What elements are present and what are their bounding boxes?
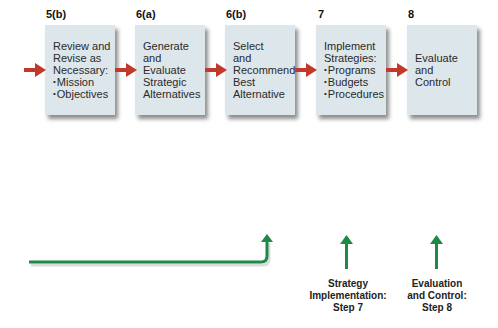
- step-text: Generate: [143, 40, 205, 52]
- label-strategy-implementation: Strategy Implementation: Step 7: [300, 278, 396, 314]
- step-box-implement: Implement Strategies: Programs Budgets P…: [316, 25, 386, 115]
- step-box-generate-evaluate: Generate and Evaluate Strategic Alternat…: [135, 25, 205, 115]
- feedback-arrow-icon: [430, 235, 444, 269]
- flow-arrow-icon: [205, 63, 227, 77]
- step-text: Review and: [53, 40, 115, 52]
- step-number-6a: 6(a): [136, 8, 156, 20]
- flow-arrow-icon: [24, 63, 46, 77]
- bullet-item: Mission: [53, 76, 115, 88]
- step-text: Implement: [324, 40, 386, 52]
- feedback-arrow-icon: [25, 232, 275, 268]
- step-text: Strategies:: [324, 52, 386, 64]
- label-evaluation-control: Evaluation and Control: Step 8: [397, 278, 477, 314]
- label-line: Strategy: [300, 278, 396, 290]
- bullet-item: Programs: [324, 64, 386, 76]
- step-text: Select: [233, 40, 295, 52]
- step-text: Revise as: [53, 52, 115, 64]
- step-text: Evaluate: [143, 64, 205, 76]
- step-text: and: [143, 52, 205, 64]
- bullet-item: Procedures: [324, 88, 386, 100]
- flow-arrow-icon: [386, 63, 408, 77]
- label-line: Evaluation: [397, 278, 477, 290]
- flow-arrow-icon: [295, 63, 317, 77]
- flow-arrow-icon: [115, 63, 137, 77]
- bullet-item: Objectives: [53, 88, 115, 100]
- label-line: Step 8: [397, 302, 477, 314]
- step-number-6b: 6(b): [226, 8, 246, 20]
- step-box-evaluate-control: Evaluate and Control: [407, 25, 477, 115]
- step-text: Alternative: [233, 88, 295, 100]
- step-text: and: [415, 64, 477, 76]
- bullet-item: Budgets: [324, 76, 386, 88]
- step-text: Evaluate: [415, 52, 477, 64]
- step-text: Best: [233, 76, 295, 88]
- label-line: Step 7: [300, 302, 396, 314]
- feedback-arrow-icon: [340, 235, 354, 269]
- label-line: Implementation:: [300, 290, 396, 302]
- step-number-8: 8: [408, 8, 414, 20]
- step-box-select-recommend: Select and Recommend Best Alternative: [225, 25, 295, 115]
- step-text: Strategic: [143, 76, 205, 88]
- step-text: and: [233, 52, 295, 64]
- step-text: Recommend: [233, 64, 295, 76]
- step-text: Necessary:: [53, 64, 115, 76]
- step-text: Control: [415, 76, 477, 88]
- step-number-7: 7: [318, 8, 324, 20]
- step-box-review-revise: Review and Revise as Necessary: Mission …: [45, 25, 115, 115]
- step-number-5b: 5(b): [46, 8, 66, 20]
- step-text: Alternatives: [143, 88, 205, 100]
- label-line: and Control:: [397, 290, 477, 302]
